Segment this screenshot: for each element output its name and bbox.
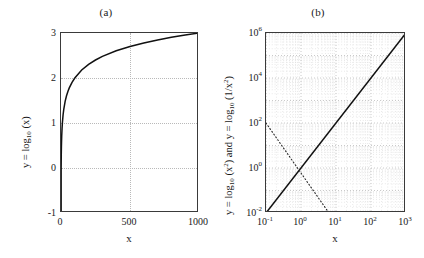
ytick-exponent: 2 — [259, 115, 263, 123]
xtick-mantissa: 10 — [398, 216, 408, 227]
y-label-arg2: (1/x — [223, 83, 234, 103]
curve-x-squared — [266, 33, 405, 212]
panel-a-ytick-3: 3 — [36, 27, 56, 38]
ytick-mantissa: 10 — [249, 27, 259, 38]
panel-a-ytick-2: 2 — [36, 72, 56, 83]
y-label-arg1: (x — [223, 167, 234, 178]
panel-b-xtick-1e3: 103 — [398, 216, 412, 227]
y-label-sub1: 10 — [228, 178, 236, 185]
panel-a-xtick-0: 0 — [58, 216, 63, 227]
y-label-middle: ) and y = log — [223, 110, 234, 164]
ytick-mantissa: 10 — [249, 162, 259, 173]
panel-b-xtick-1e1: 101 — [328, 216, 342, 227]
panel-b-x-axis-title: x — [265, 232, 405, 244]
y-label-exp1: 2 — [222, 163, 230, 167]
panel-b-ytick-1e4: 104 — [234, 72, 262, 83]
xtick-mantissa: 10 — [293, 216, 303, 227]
ytick-exponent: 4 — [259, 70, 263, 78]
y-label-subscript: 10 — [25, 131, 33, 138]
panel-a-ytick-neg1: -1 — [32, 207, 56, 218]
panel-a-y-axis-title: y = log10 (x) — [20, 116, 31, 168]
panel-a-xtick-1000: 1000 — [188, 216, 208, 227]
panel-b-ytick-1e2: 102 — [234, 117, 262, 128]
panel-b-ytick-1e0: 100 — [234, 162, 262, 173]
panel-b-ytick-1e6: 106 — [234, 27, 262, 38]
y-label-sub2: 10 — [228, 103, 236, 110]
ytick-exponent: -2 — [256, 205, 262, 213]
xtick-mantissa: 10 — [328, 216, 338, 227]
y-label-prefix: y = log — [20, 138, 31, 168]
xtick-exponent: 1 — [338, 215, 342, 223]
ytick-mantissa: 10 — [246, 207, 256, 218]
panel-a-ytick-0: 0 — [36, 162, 56, 173]
y-label-argument: (x) — [20, 116, 31, 131]
xtick-mantissa: 10 — [257, 216, 267, 227]
panel-b-plot-area — [265, 32, 405, 212]
xtick-exponent: 2 — [373, 215, 377, 223]
curve-log10-x — [61, 33, 198, 212]
y-label-end: ) — [223, 76, 234, 80]
panel-a-title: (a) — [0, 6, 212, 18]
panel-a-ytick-1: 1 — [36, 117, 56, 128]
y-label-exp2: 2 — [222, 79, 230, 83]
panel-b-xtick-1e0: 100 — [293, 216, 307, 227]
panel-b-xtick-1e2: 102 — [363, 216, 377, 227]
xtick-mantissa: 10 — [363, 216, 373, 227]
panel-b-y-axis-title: y = log10 (x2) and y = log10 (1/x2) — [223, 76, 234, 215]
xtick-exponent: 0 — [303, 215, 307, 223]
panel-a: (a) y = log10 (x) 3 2 1 0 -1 0 500 1000 … — [0, 0, 212, 258]
ytick-mantissa: 10 — [249, 72, 259, 83]
panel-b-curve-svg — [266, 33, 405, 212]
panel-b-xtick-1e-1: 10-1 — [257, 216, 273, 227]
panel-b-title: (b) — [212, 6, 424, 18]
ytick-mantissa: 10 — [249, 117, 259, 128]
xtick-exponent: -1 — [267, 215, 273, 223]
ytick-exponent: 0 — [259, 160, 263, 168]
panel-a-xtick-500: 500 — [122, 216, 137, 227]
curve-one-over-x-squared — [266, 123, 329, 212]
figure-container: (a) y = log10 (x) 3 2 1 0 -1 0 500 1000 … — [0, 0, 424, 258]
panel-a-plot-area — [60, 32, 198, 212]
panel-a-curve-svg — [61, 33, 198, 212]
panel-b: (b) y = log10 (x2) and y = log10 (1/x2) … — [212, 0, 424, 258]
ytick-exponent: 6 — [259, 25, 263, 33]
panel-a-x-axis-title: x — [60, 232, 198, 244]
xtick-exponent: 3 — [408, 215, 412, 223]
